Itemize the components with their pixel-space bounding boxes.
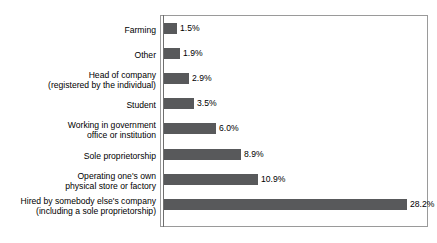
category-label: Other — [0, 50, 156, 60]
chart-row: Hired by somebody else's company (includ… — [0, 198, 437, 224]
category-label: Hired by somebody else's company (includ… — [0, 196, 156, 217]
category-label: Farming — [0, 25, 156, 35]
bar — [164, 149, 241, 160]
bar-value-label: 1.5% — [180, 23, 200, 34]
bar-value-label: 6.0% — [219, 123, 239, 134]
bar-value-label: 3.5% — [197, 98, 217, 109]
bar-value-label: 8.9% — [244, 149, 264, 160]
bar — [164, 23, 177, 34]
bar-value-label: 28.2% — [410, 199, 434, 210]
chart-row: Farming 1.5% — [0, 22, 437, 48]
category-label: Operating one's own physical store or fa… — [0, 171, 156, 192]
bar-value-label: 1.9% — [183, 48, 203, 59]
bar — [164, 123, 216, 134]
bar — [164, 98, 194, 109]
bar-value-label: 10.9% — [261, 174, 285, 185]
bar — [164, 199, 407, 210]
category-label: Working in government office or institut… — [0, 120, 156, 141]
bar-value-label: 2.9% — [192, 73, 212, 84]
category-label: Student — [0, 100, 156, 110]
bar — [164, 174, 258, 185]
bar-chart: Farming 1.5% Other 1.9% Head of company … — [0, 0, 437, 243]
chart-row: Head of company (registered by the indiv… — [0, 72, 437, 98]
bar — [164, 48, 180, 59]
category-label: Head of company (registered by the indiv… — [0, 70, 156, 91]
chart-row: Working in government office or institut… — [0, 122, 437, 148]
bar — [164, 73, 189, 84]
category-label: Sole proprietorship — [0, 151, 156, 161]
